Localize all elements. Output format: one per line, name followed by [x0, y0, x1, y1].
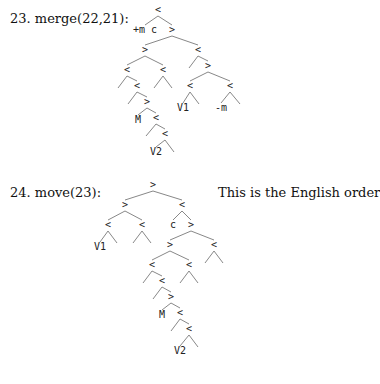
tree-edge: [145, 36, 172, 45]
tree-node: +m c: [133, 24, 157, 35]
tree-edge: [190, 92, 199, 104]
tree-node: <: [179, 199, 185, 210]
tree-edge: [153, 191, 182, 200]
tree-node: M: [159, 309, 165, 320]
tree-node: <: [195, 44, 201, 55]
tree-edge: [205, 251, 214, 263]
tree-edge: [146, 124, 156, 136]
tree-edge: [165, 140, 174, 152]
tree-edge: [189, 335, 198, 347]
tree-edge: [153, 287, 162, 299]
tree-edge: [214, 251, 223, 263]
tree-edge: [125, 191, 153, 200]
tree-edge: [171, 319, 180, 331]
tree-node: <: [160, 64, 166, 75]
tree-edge: [230, 92, 240, 104]
tree-edge: [133, 231, 142, 243]
tree-step-24: >><<<V1c>><<<<>M<<V2: [94, 179, 223, 356]
tree-edge: [163, 76, 172, 88]
tree-edge: [180, 271, 189, 283]
tree-node: <: [105, 219, 111, 230]
tree-edge: [128, 92, 137, 104]
tree-node: >: [142, 44, 148, 55]
tree-node: <: [159, 275, 165, 286]
tree-edge: [189, 56, 198, 68]
tree-node: >: [122, 199, 128, 210]
tree-edge: [154, 76, 163, 88]
tree-node: >: [150, 179, 156, 190]
tree-node: >: [167, 239, 173, 250]
tree-edge: [189, 271, 198, 283]
tree-node: <: [149, 259, 155, 270]
tree-edge: [170, 231, 191, 240]
tree-node: <: [124, 64, 130, 75]
tree-edge: [142, 231, 151, 243]
tree-node: <: [155, 4, 161, 15]
tree-node: >: [144, 96, 150, 107]
tree-node: <: [177, 307, 183, 318]
tree-node: V2: [174, 345, 186, 356]
tree-step-23: <+m c>><<<<>M<<V2><<V1-m: [118, 4, 240, 157]
tree-node: <: [211, 239, 217, 250]
tree-node: <: [187, 80, 193, 91]
tree-node: >: [188, 219, 194, 230]
tree-node: <: [227, 80, 233, 91]
tree-node: <: [139, 219, 145, 230]
tree-node: M: [135, 114, 141, 125]
tree-node: >: [205, 60, 211, 71]
tree-node: <: [134, 80, 140, 91]
tree-node: >: [169, 24, 175, 35]
tree-edge: [118, 76, 127, 88]
tree-node: <: [186, 323, 192, 334]
tree-node: V2: [150, 146, 162, 157]
tree-edge: [143, 271, 152, 283]
tree-node: -m: [215, 102, 227, 113]
tree-node: V1: [94, 241, 106, 252]
tree-edge: [108, 231, 117, 243]
tree-node: c: [170, 219, 176, 230]
tree-node: <: [186, 259, 192, 270]
tree-node: <: [153, 112, 159, 123]
tree-node: V1: [177, 102, 189, 113]
tree-node: >: [168, 291, 174, 302]
tree-node: <: [162, 128, 168, 139]
